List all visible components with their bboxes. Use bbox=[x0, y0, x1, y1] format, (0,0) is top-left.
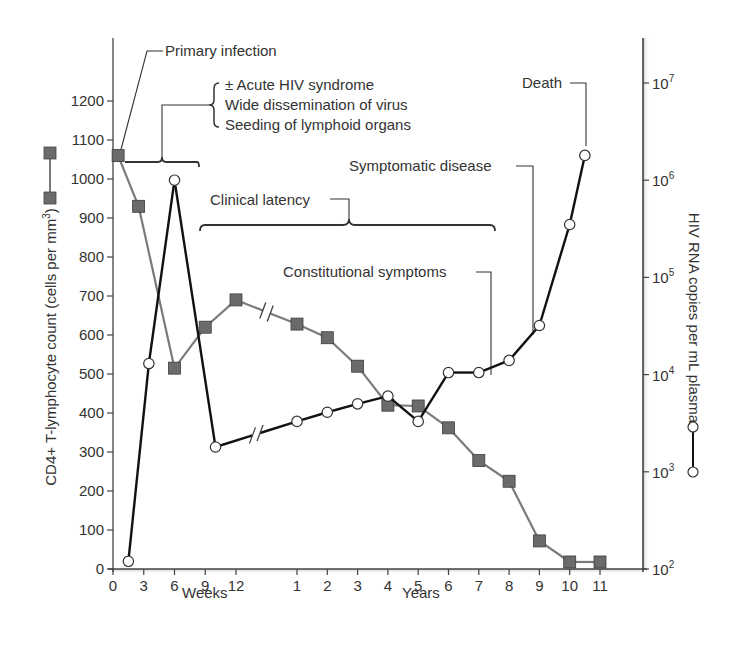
constitutional-leader bbox=[476, 272, 491, 375]
data-point-square bbox=[503, 475, 515, 487]
acute-syndrome-label: ± Acute HIV syndrome bbox=[225, 76, 374, 93]
death-leader bbox=[570, 83, 586, 146]
data-point-square bbox=[133, 200, 145, 212]
data-point-square bbox=[564, 556, 576, 568]
primary-infection-label: Primary infection bbox=[165, 42, 277, 59]
x-tick-label-weeks: 3 bbox=[140, 577, 148, 594]
y-left-tick-label: 1200 bbox=[71, 92, 104, 109]
data-point-circle bbox=[169, 175, 179, 185]
x-tick-label-years: 9 bbox=[535, 577, 543, 594]
data-point-square bbox=[352, 360, 364, 372]
x-tick-label-weeks: 0 bbox=[109, 577, 117, 594]
square-marker-icon bbox=[44, 147, 56, 159]
x-tick-label-years: 7 bbox=[475, 577, 483, 594]
data-point-circle bbox=[210, 442, 220, 452]
right-axis-shade bbox=[643, 38, 649, 569]
y-left-tick-label: 900 bbox=[79, 209, 104, 226]
data-point-circle bbox=[292, 416, 302, 426]
y-left-tick-label: 800 bbox=[79, 248, 104, 265]
data-point-circle bbox=[474, 367, 484, 377]
data-point-circle bbox=[443, 367, 453, 377]
y-right-tick-label: 103 bbox=[652, 462, 675, 481]
y-right-tick-label: 105 bbox=[652, 267, 675, 286]
clinical-latency-label: Clinical latency bbox=[210, 191, 311, 208]
data-point-square bbox=[169, 362, 181, 374]
x-tick-label-years: 11 bbox=[592, 577, 608, 594]
data-point-circle bbox=[565, 219, 575, 229]
series-segment bbox=[216, 435, 253, 447]
series-segment bbox=[128, 364, 149, 562]
circle-marker-icon bbox=[688, 467, 698, 477]
acute-brace bbox=[125, 157, 199, 167]
x-tick-label-weeks: 12 bbox=[228, 577, 245, 594]
y-left-tick-label: 1100 bbox=[72, 131, 104, 148]
data-point-square bbox=[443, 422, 455, 434]
acute-leader bbox=[162, 105, 209, 157]
x-label-years: Years bbox=[402, 584, 440, 601]
left-y-ticks: 0100200300400500600700800900100011001200 bbox=[71, 92, 113, 577]
data-point-circle bbox=[144, 358, 154, 368]
symptomatic-leader bbox=[516, 166, 533, 335]
y-right-tick-label: 102 bbox=[652, 559, 675, 578]
y-left-tick-label: 300 bbox=[79, 443, 104, 460]
data-point-circle bbox=[580, 150, 590, 160]
x-label-weeks: Weeks bbox=[182, 584, 228, 601]
constitutional-symptoms-label: Constitutional symptoms bbox=[283, 263, 446, 280]
data-point-circle bbox=[504, 355, 514, 365]
data-point-square bbox=[112, 150, 124, 162]
y-right-tick-label: 106 bbox=[652, 170, 675, 189]
y-label-right: HIV RNA copies per mL plasma bbox=[686, 213, 703, 424]
x-tick-label-years: 4 bbox=[384, 577, 392, 594]
data-point-circle bbox=[322, 407, 332, 417]
y-left-tick-label: 700 bbox=[79, 287, 104, 304]
y-left-tick-label: 100 bbox=[79, 521, 104, 538]
series-segment bbox=[509, 481, 539, 541]
primary-infection-leader bbox=[119, 51, 163, 157]
series-segment bbox=[260, 421, 297, 433]
square-marker-icon bbox=[44, 192, 56, 204]
series-segment bbox=[539, 225, 569, 326]
dissemination-label: Wide dissemination of virus bbox=[225, 96, 408, 113]
data-point-circle bbox=[383, 391, 393, 401]
y-right-tick-label: 104 bbox=[652, 365, 675, 384]
symptomatic-disease-label: Symptomatic disease bbox=[349, 157, 492, 174]
x-tick-label-years: 10 bbox=[561, 577, 578, 594]
legend-rna bbox=[688, 422, 698, 477]
x-tick-label-years: 2 bbox=[323, 577, 331, 594]
x-tick-label-years: 1 bbox=[293, 577, 301, 594]
y-left-tick-label: 0 bbox=[96, 560, 104, 577]
series-cd4-count bbox=[112, 150, 606, 568]
annotation-labels: Primary infection ± Acute HIV syndrome W… bbox=[165, 42, 562, 280]
data-point-square bbox=[412, 400, 424, 412]
data-point-square bbox=[230, 294, 242, 306]
series-segment bbox=[139, 206, 175, 368]
series-segment bbox=[418, 373, 448, 422]
x-tick-label-years: 3 bbox=[353, 577, 361, 594]
y-left-tick-label: 200 bbox=[79, 482, 104, 499]
series-segment bbox=[509, 325, 539, 360]
data-point-circle bbox=[123, 556, 133, 566]
data-point-square bbox=[321, 332, 333, 344]
data-point-circle bbox=[534, 320, 544, 330]
series-segment bbox=[570, 155, 585, 224]
y-left-tick-label: 1000 bbox=[71, 170, 104, 187]
data-point-square bbox=[594, 556, 606, 568]
data-point-circle bbox=[413, 416, 423, 426]
series-segment bbox=[175, 180, 216, 447]
x-tick-label-weeks: 6 bbox=[170, 577, 178, 594]
data-point-square bbox=[199, 321, 211, 333]
death-label: Death bbox=[522, 74, 562, 91]
clinical-latency-brace bbox=[200, 219, 495, 231]
y-left-tick-label: 400 bbox=[79, 404, 104, 421]
data-point-circle bbox=[352, 399, 362, 409]
circle-marker-icon bbox=[688, 422, 698, 432]
x-tick-label-years: 6 bbox=[444, 577, 452, 594]
legend-cd4 bbox=[44, 147, 56, 204]
seeding-label: Seeding of lymphoid organs bbox=[225, 116, 411, 133]
y-right-tick-label: 107 bbox=[652, 73, 675, 92]
y-label-left: CD4+ T-lymphocyte count (cells per mm3) bbox=[41, 208, 59, 485]
x-tick-label-years: 8 bbox=[505, 577, 513, 594]
y-left-tick-label: 500 bbox=[79, 365, 104, 382]
data-point-square bbox=[291, 318, 303, 330]
hiv-progression-chart: 0100200300400500600700800900100011001200… bbox=[0, 0, 738, 661]
